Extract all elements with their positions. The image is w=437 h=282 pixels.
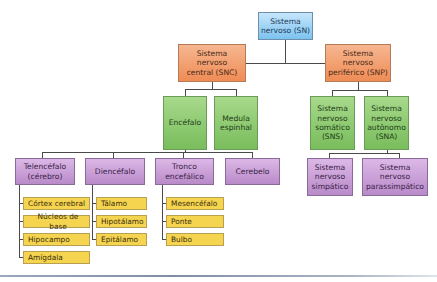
node-label-line: Sistema <box>367 104 406 113</box>
node-label-line: somático <box>315 123 350 132</box>
bottom-separator-line <box>0 275 437 277</box>
node-label-line: periférico (SNP) <box>328 68 388 77</box>
leaf-bulbo: Bulbo <box>166 233 224 246</box>
node-label-line: nervoso <box>315 114 350 123</box>
leaf-hipocampo: Hipocampo <box>23 233 90 246</box>
node-label-line: Cerebelo <box>236 167 270 176</box>
connector-snc-children <box>185 89 236 90</box>
node-snc: Sistema nervoso central (SNC) <box>178 44 246 82</box>
node-label-line: nervoso (SN) <box>261 26 310 35</box>
node-simpatico: Sistema nervoso simpático <box>307 158 353 196</box>
connector-medula-up <box>236 89 237 96</box>
node-cerebelo: Cerebelo <box>225 158 280 185</box>
node-label-line: parassimpático <box>366 182 424 191</box>
connector-tronco-list <box>162 185 163 240</box>
node-label-line: nervoso <box>367 114 406 123</box>
node-label-line: Sistema <box>187 49 238 58</box>
node-label-line: espinhal <box>220 123 252 132</box>
node-tronco-encefalico: Tronco encefálico <box>155 158 214 185</box>
node-label-line: Diencéfalo <box>95 167 135 176</box>
node-label-line: (SNA) <box>367 132 406 141</box>
leaf-nucleos-de-base: Núcleos de base <box>23 215 90 228</box>
node-label-line: nervoso <box>187 58 238 67</box>
node-label-line: Tronco <box>165 162 204 171</box>
node-label-line: Sistema <box>261 17 310 26</box>
node-encefalo: Encéfalo <box>163 96 207 150</box>
leaf-talamo: Tálamo <box>96 197 147 210</box>
leaf-amigdala: Amígdala <box>23 251 90 264</box>
node-label-line: encefálico <box>165 172 204 181</box>
node-sistema-nervoso: Sistema nervoso (SN) <box>258 12 313 40</box>
connector-snc-down <box>212 82 213 89</box>
connector-sn-down <box>285 40 286 63</box>
node-label-line: Sistema <box>312 163 349 172</box>
connector-diencefalo-list <box>92 185 93 240</box>
node-label-line: autônomo <box>367 123 406 132</box>
node-label-line: Encéfalo <box>169 118 202 127</box>
leaf-cortex-cerebral: Córtex cerebral <box>23 197 90 210</box>
connector-snp-down <box>358 82 359 90</box>
node-label-line: simpático <box>312 182 349 191</box>
node-label-line: Telencéfalo <box>24 162 67 171</box>
node-label-line: Medula <box>220 114 252 123</box>
leaf-ponte: Ponte <box>166 215 224 228</box>
node-medula-espinhal: Medula espinhal <box>214 96 258 150</box>
node-parassimpatico: Sistema nervoso parassimpático <box>362 158 428 196</box>
connector-encefalo-children <box>42 152 252 153</box>
node-label-line: nervoso <box>328 58 388 67</box>
node-label-line: nervoso <box>312 172 349 181</box>
leaf-mesencefalo: Mesencéfalo <box>166 197 224 210</box>
node-label-line: Sistema <box>315 104 350 113</box>
leaf-epitalamo: Epitálamo <box>96 233 147 246</box>
node-label-line: Sistema <box>366 163 424 172</box>
node-sns: Sistema nervoso somático (SNS) <box>310 96 355 150</box>
connector-encefalo-up <box>185 89 186 96</box>
node-diencefalo: Diencéfalo <box>85 158 145 185</box>
node-label-line: Sistema <box>328 49 388 58</box>
node-snp: Sistema nervoso periférico (SNP) <box>325 44 391 82</box>
connector-sna-children <box>329 153 399 154</box>
node-label-line: (cérebro) <box>24 172 67 181</box>
node-label-line: central (SNC) <box>187 68 238 77</box>
node-telencefalo: Telencéfalo (cérebro) <box>15 158 75 185</box>
leaf-hipotalamo: Hipotálamo <box>96 215 147 228</box>
connector-snc-snp <box>246 63 325 64</box>
node-label-line: (SNS) <box>315 132 350 141</box>
node-label-line: nervoso <box>366 172 424 181</box>
node-sna: Sistema nervoso autônomo (SNA) <box>364 96 409 150</box>
connector-snp-children <box>332 90 387 91</box>
